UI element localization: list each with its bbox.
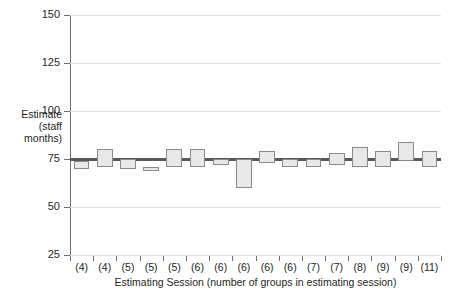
box-plot-box <box>282 159 298 167</box>
box-plot-box <box>236 159 252 188</box>
y-tick-label: 100 <box>14 104 60 116</box>
boxplot-chart: Estimate (staff months) 255075100125150 … <box>0 0 455 293</box>
box-plot-box <box>120 159 136 169</box>
gridline-100 <box>70 111 441 112</box>
gridline-50 <box>70 207 441 208</box>
y-tick-label: 50 <box>14 200 60 212</box>
y-tick-50 <box>64 207 70 208</box>
box-plot-box <box>306 159 322 167</box>
box-plot-box <box>166 149 182 166</box>
x-axis-title: Estimating Session (number of groups in … <box>70 276 441 288</box>
y-tick-label: 150 <box>14 8 60 20</box>
box-plot-box <box>143 167 159 171</box>
y-tick-75 <box>64 159 70 160</box>
y-tick-label: 75 <box>14 152 60 164</box>
box-plot-box <box>190 149 206 166</box>
plot-area <box>70 15 441 255</box>
y-tick-150 <box>64 15 70 16</box>
y-tick-125 <box>64 63 70 64</box>
box-plot-box <box>329 153 345 165</box>
gridline-150 <box>70 15 441 16</box>
x-tick <box>441 256 442 261</box>
box-plot-box <box>422 151 438 166</box>
box-plot-box <box>213 159 229 165</box>
y-tick-100 <box>64 111 70 112</box>
box-plot-box <box>352 147 368 166</box>
box-plot-box <box>375 151 391 166</box>
box-plot-box <box>259 151 275 163</box>
box-plot-box <box>97 149 113 166</box>
box-plot-box <box>74 161 90 169</box>
box-plot-box <box>398 142 414 161</box>
y-tick-label: 25 <box>14 248 60 260</box>
x-tick-label: (11) <box>409 261 449 273</box>
y-tick-label: 125 <box>14 56 60 68</box>
gridline-125 <box>70 63 441 64</box>
